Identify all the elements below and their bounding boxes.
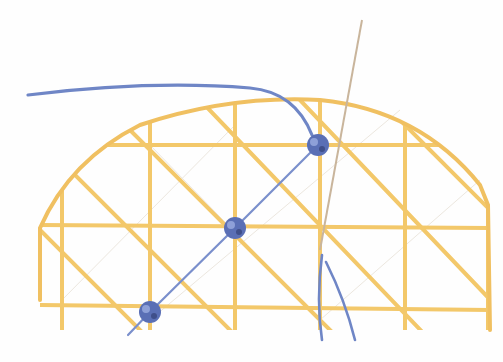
needle bbox=[320, 20, 362, 250]
embroidery-photo: embroidery stitch: blue thread knots on … bbox=[0, 0, 503, 362]
knot bbox=[139, 301, 161, 323]
knot bbox=[307, 134, 329, 156]
blue-thread-hanging-loop bbox=[319, 255, 355, 340]
embroidery-illustration bbox=[0, 0, 503, 362]
blue-thread-loose-strand bbox=[28, 85, 312, 135]
knot bbox=[224, 217, 246, 239]
pencil-guides bbox=[62, 110, 480, 320]
